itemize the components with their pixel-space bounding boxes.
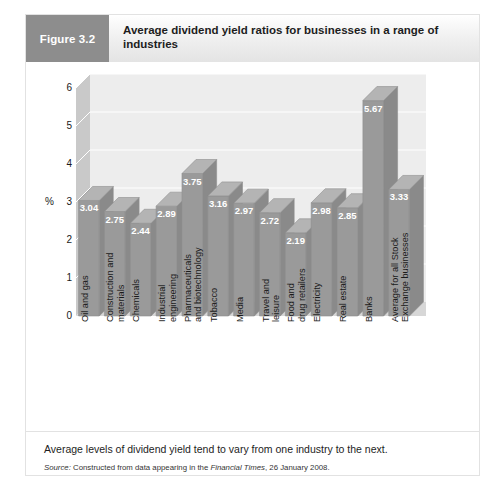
source-text-a-value: Constructed from data appearing in the xyxy=(73,463,208,472)
bar-value-label: 2.98 xyxy=(312,205,331,216)
bar-side xyxy=(409,175,423,316)
x-axis-category-label: leisure xyxy=(271,295,281,322)
x-axis-category-label: engineering xyxy=(168,274,178,322)
bar-value-label: 5.67 xyxy=(364,103,383,114)
x-axis-category-label: Real estate xyxy=(338,276,348,322)
bar-value-label: 2.44 xyxy=(131,225,150,236)
y-axis-unit-label: % xyxy=(40,196,54,207)
y-axis-tick-label: 0 xyxy=(50,310,72,321)
figure-title: Average dividend yield ratios for busine… xyxy=(109,15,479,62)
x-axis-category-label: Construction and xyxy=(105,253,115,322)
bar-value-label: 2.89 xyxy=(157,208,176,219)
x-axis-category-label: Industrial xyxy=(157,285,167,322)
x-axis-category-label: Exchange businesses xyxy=(400,233,410,322)
figure-footer: Average levels of dividend yield tend to… xyxy=(26,431,479,476)
y-axis-tick-label: 6 xyxy=(50,82,72,93)
chart-region: 3.042.752.442.893.753.162.972.722.192.98… xyxy=(26,62,479,431)
x-axis-category-label: Oil and gas xyxy=(80,276,90,322)
bar-value-label: 2.97 xyxy=(235,205,254,216)
x-axis-category-label: Media xyxy=(235,297,245,322)
x-axis-category-label: Average for all Stock xyxy=(390,237,400,322)
x-axis-category-label: materials xyxy=(116,285,126,322)
x-axis-category-label: Pharmaceuticals xyxy=(183,254,193,322)
x-axis-category-label: Travel and xyxy=(261,279,271,322)
x-axis-category-label: Banks xyxy=(364,296,374,322)
bar-front xyxy=(363,101,384,316)
source-publication: Financial Times xyxy=(210,463,265,472)
y-axis-tick-label: 4 xyxy=(50,158,72,169)
y-axis-tick-label: 5 xyxy=(50,120,72,131)
bar-value-label: 3.16 xyxy=(209,198,228,209)
bar-value-label: 3.33 xyxy=(390,191,409,202)
bar-value-label: 3.75 xyxy=(183,176,202,187)
figure-caption: Average levels of dividend yield tend to… xyxy=(44,442,461,456)
bar-value-label: 2.75 xyxy=(106,214,125,225)
x-axis-category-label: drug retailers xyxy=(297,268,307,322)
bar-value-label: 3.04 xyxy=(80,202,99,213)
x-axis-category-label: and biotechnology xyxy=(193,247,203,322)
source-prefix: Source: xyxy=(44,463,71,472)
bar-value-label: 2.19 xyxy=(286,235,305,246)
x-axis-category-label: Tobacco xyxy=(209,288,219,322)
x-axis-category-label: Food and xyxy=(286,283,296,322)
figure-source: Source: Constructed from data appearing … xyxy=(44,463,461,473)
figure-number-badge: Figure 3.2 xyxy=(26,15,109,62)
bar-chart: 3.042.752.442.893.753.162.972.722.192.98… xyxy=(26,62,481,431)
y-axis-tick-label: 2 xyxy=(50,234,72,245)
figure-header: Figure 3.2 Average dividend yield ratios… xyxy=(26,15,479,62)
bar-value-label: 2.85 xyxy=(338,210,357,221)
bar-value-label: 2.72 xyxy=(261,215,280,226)
y-axis-tick-label: 1 xyxy=(50,272,72,283)
source-text-b: , 26 January 2008. xyxy=(265,463,330,472)
chart-canvas: 3.042.752.442.893.753.162.972.722.192.98… xyxy=(26,62,481,431)
x-axis-category-label: Chemicals xyxy=(131,279,141,322)
x-axis-category-label: Electricity xyxy=(312,283,322,322)
figure-container: Figure 3.2 Average dividend yield ratios… xyxy=(25,14,480,476)
